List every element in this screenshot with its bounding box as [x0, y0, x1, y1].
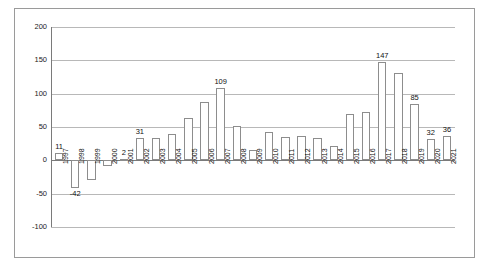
x-axis-tick-label: 2010 — [272, 149, 279, 165]
y-axis-tick-label: -50 — [36, 190, 47, 198]
x-axis-tick-label: 2006 — [208, 149, 215, 165]
x-axis-tick-label: 2009 — [256, 149, 263, 165]
y-axis-tick-label: 200 — [34, 23, 47, 31]
bar-value-label-2017: 147 — [376, 52, 389, 60]
x-axis-tick-label: 2007 — [224, 149, 231, 165]
bar-value-label-2020: 32 — [427, 129, 435, 137]
x-axis-tick-label: 2014 — [337, 149, 344, 165]
y-axis-tick-label: 50 — [39, 123, 47, 131]
x-axis-tick-label: 2013 — [321, 149, 328, 165]
bar-2017[interactable] — [378, 62, 386, 160]
x-axis-tick-label: 2020 — [434, 149, 441, 165]
bar-value-label-2007: 109 — [214, 78, 227, 86]
x-axis-tick-label: 1998 — [78, 149, 85, 165]
y-axis-tick-label: 150 — [34, 57, 47, 65]
bar-value-label-2001: 2 — [122, 149, 126, 157]
x-axis-tick-label: 2019 — [418, 149, 425, 165]
bar-value-label-2002: 31 — [136, 128, 144, 136]
x-axis-tick-label: 2016 — [369, 149, 376, 165]
y-axis-line — [51, 27, 52, 227]
y-axis-tick-label: 100 — [34, 90, 47, 98]
x-axis-tick-label: 2001 — [127, 149, 134, 165]
bar-1998[interactable] — [71, 160, 79, 188]
x-axis-tick-label: 1997 — [62, 149, 69, 165]
plot-area: -100-500501001502001997111998-4219992000… — [51, 27, 455, 227]
x-axis-tick-label: 2011 — [288, 149, 295, 164]
x-axis-tick-label: 2017 — [385, 149, 392, 165]
x-axis-tick-label: 2005 — [191, 149, 198, 165]
gridline-200 — [51, 27, 455, 28]
bar-value-label-2021: 36 — [443, 126, 451, 134]
x-axis-tick-label: 2021 — [450, 149, 457, 165]
bar-value-label-1998: -42 — [70, 190, 81, 198]
x-axis-tick-label: 2003 — [159, 149, 166, 165]
x-axis-tick-label: 2012 — [304, 149, 311, 165]
x-axis-tick-label: 2000 — [111, 149, 118, 165]
gridline--50 — [51, 194, 455, 195]
bar-value-label-2019: 85 — [410, 94, 418, 102]
chart-frame: -100-500501001502001997111998-4219992000… — [14, 8, 475, 258]
x-axis-tick-label: 2018 — [401, 149, 408, 165]
x-axis-tick-label: 1999 — [94, 149, 101, 165]
y-axis-tick-label: 0 — [43, 157, 47, 165]
x-axis-tick-label: 2002 — [143, 149, 150, 165]
y-axis-tick-label: -100 — [32, 223, 47, 231]
x-axis-tick-label: 2008 — [240, 149, 247, 165]
bar-value-label-1997: 11 — [55, 143, 63, 151]
gridline-150 — [51, 60, 455, 61]
x-axis-tick-label: 2004 — [175, 149, 182, 165]
gridline--100 — [51, 227, 455, 228]
x-axis-tick-label: 2015 — [353, 149, 360, 165]
